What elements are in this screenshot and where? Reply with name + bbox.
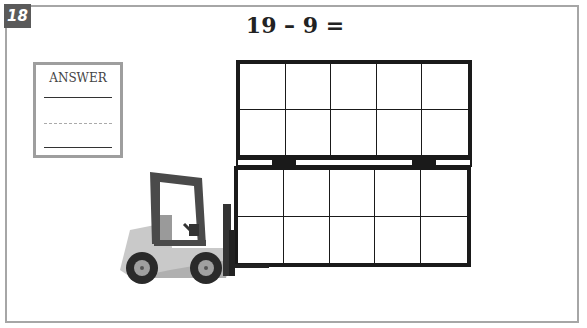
answer-line-bottom <box>44 147 112 148</box>
ten-frame-cell[interactable] <box>330 217 376 264</box>
ten-frame-cell[interactable] <box>375 170 421 217</box>
ten-frame-cell[interactable] <box>377 64 423 110</box>
answer-line-top <box>44 97 112 98</box>
answer-label: ANSWER <box>36 71 120 85</box>
ten-frame-cell[interactable] <box>240 110 286 156</box>
answer-line-dashed <box>44 123 112 124</box>
ten-frame-cell[interactable] <box>331 110 377 156</box>
ten-frame-cell[interactable] <box>377 110 423 156</box>
ten-frame-cell[interactable] <box>330 170 376 217</box>
ten-frame-cell[interactable] <box>240 64 286 110</box>
forklift-icon <box>110 160 290 290</box>
ten-frame-cell[interactable] <box>286 110 332 156</box>
ten-frame-cell[interactable] <box>286 64 332 110</box>
ten-frame-cell[interactable] <box>421 170 467 217</box>
ten-frame-cell[interactable] <box>422 110 468 156</box>
answer-box[interactable]: ANSWER <box>33 62 123 158</box>
equation-title: 19 – 9 = <box>230 12 360 38</box>
ten-frame-cell[interactable] <box>284 217 330 264</box>
ten-frame-cell[interactable] <box>421 217 467 264</box>
ten-frame-cell[interactable] <box>331 64 377 110</box>
ten-frame-cell[interactable] <box>422 64 468 110</box>
ten-frame-top <box>236 60 472 159</box>
ten-frame-cell[interactable] <box>284 170 330 217</box>
problem-number-badge: 18 <box>4 4 31 28</box>
ten-frame-cell[interactable] <box>375 217 421 264</box>
